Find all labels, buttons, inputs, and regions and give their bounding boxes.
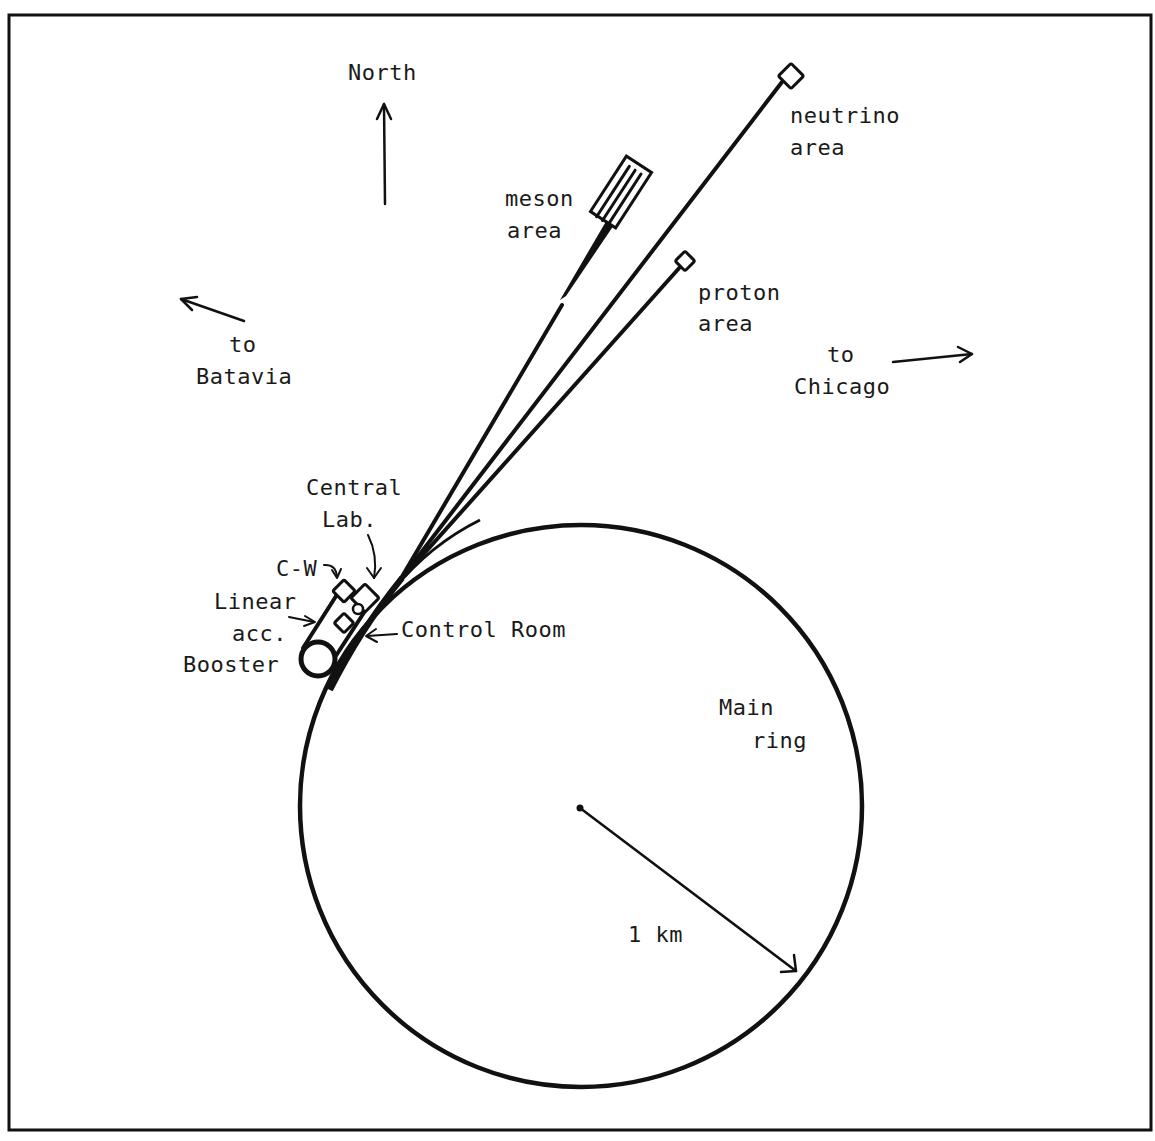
batavia-label-line1: to [229,332,257,357]
proton-label-line1: proton [698,280,780,305]
linear-acc-label-line2: acc. [232,621,287,646]
meson-label-line2: area [507,218,562,243]
control-room-annotation: Control Room [366,617,566,642]
linear-acc-label-line1: Linear [214,589,296,614]
north-label: North [348,60,417,85]
control-room-label: Control Room [401,617,566,642]
proton-area: proton area [675,251,780,336]
north-compass: North [348,60,417,204]
direction-chicago: to Chicago [794,342,972,399]
arrow-right-icon [893,347,972,362]
frame-border [9,15,1151,1130]
arrow-up-icon [377,104,391,204]
central-lab-label-line1: Central [306,475,402,500]
meson-label-line1: meson [505,186,574,211]
chicago-label-line2: Chicago [794,374,890,399]
meson-beam-bundle [560,218,616,300]
arrow-upleft-icon [181,297,244,321]
neutrino-label-line1: neutrino [790,103,900,128]
site-map-diagram: North to Batavia to Chicago Main ring 1 [0,0,1155,1141]
main-ring-label-line1: Main [719,695,774,720]
batavia-label-line2: Batavia [196,364,292,389]
direction-batavia: to Batavia [181,297,292,389]
central-lab-annotation: Central Lab. [306,475,402,578]
neutrino-label-line2: area [790,135,845,160]
beam-lines [330,82,782,690]
cw-label: C-W [276,556,317,581]
booster-annotation: Booster [183,652,279,677]
main-ring-label-line2: ring [752,728,807,753]
booster-ring [301,642,335,676]
booster-label: Booster [183,652,279,677]
central-lab-label-line2: Lab. [322,507,377,532]
scale-radius: 1 km [577,805,797,973]
cw-annotation: C-W [276,556,341,581]
chicago-label-line1: to [827,342,855,367]
proton-label-line2: area [698,311,753,336]
scale-label: 1 km [628,922,683,947]
neutrino-area: neutrino area [778,63,900,160]
meson-area: meson area [505,156,652,243]
linear-acc-annotation: Linear acc. [214,589,315,646]
meson-beam-line [400,305,562,580]
